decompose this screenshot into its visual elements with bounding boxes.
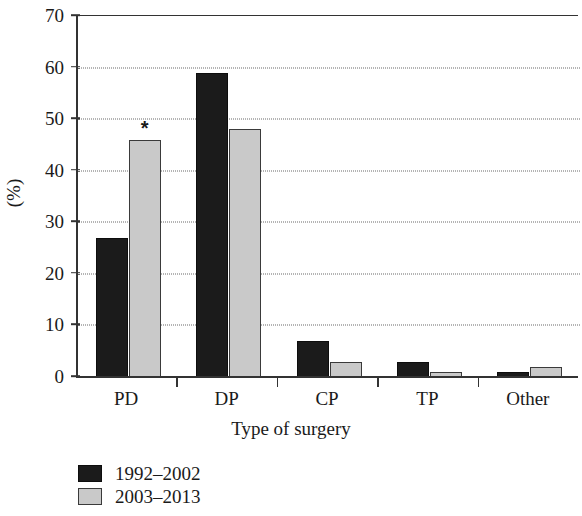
x-axis-tick-label: CP [315, 388, 338, 410]
bar [397, 362, 429, 377]
gridline [78, 67, 580, 68]
y-axis-tick-label: 60 [20, 57, 64, 76]
significance-asterisk: * [141, 118, 149, 138]
legend-swatch [78, 465, 102, 482]
gridline [78, 119, 580, 120]
bar [330, 362, 362, 377]
x-axis-tick-label: DP [214, 388, 238, 410]
x-axis-tick-label: Other [506, 388, 549, 410]
y-axis-tick-label: 70 [20, 6, 64, 25]
bar [196, 73, 228, 377]
y-axis-tick-label: 30 [20, 212, 64, 231]
bar [229, 129, 261, 377]
x-axis-tick-mark [478, 378, 480, 387]
x-axis-line [76, 376, 578, 378]
legend-item: 2003–2013 [78, 485, 201, 508]
legend-swatch [78, 488, 102, 505]
bar [297, 341, 329, 377]
bar [96, 238, 128, 377]
x-axis-tick-mark [377, 378, 379, 387]
y-axis-tick-label: 40 [20, 160, 64, 179]
legend-item: 1992–2002 [78, 462, 201, 485]
bar-chart-figure: (%) 010203040506070 * PDDPCPTPOther Type… [0, 0, 582, 516]
y-axis-tick-label: 20 [20, 263, 64, 282]
x-axis-tick-mark [176, 378, 178, 387]
x-axis-tick-mark [277, 378, 279, 387]
x-axis-tick-label: PD [114, 388, 138, 410]
y-axis-tick-label: 0 [20, 367, 64, 386]
plot-area: * [76, 15, 578, 376]
bar [129, 140, 161, 377]
legend-label: 1992–2002 [115, 464, 201, 483]
legend: 1992–20022003–2013 [78, 462, 201, 508]
y-axis-tick-label: 10 [20, 315, 64, 334]
legend-label: 2003–2013 [115, 487, 201, 506]
x-axis-title: Type of surgery [0, 418, 582, 440]
y-axis-tick-label: 50 [20, 109, 64, 128]
x-axis-tick-label: TP [416, 388, 438, 410]
